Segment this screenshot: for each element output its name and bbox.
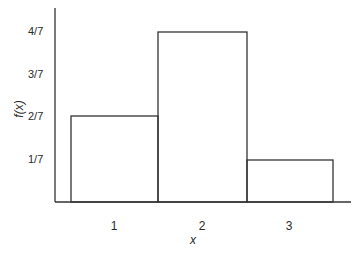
x-axis-label: x bbox=[190, 233, 196, 247]
y-axis-label: f(x) bbox=[12, 96, 26, 122]
bar-2 bbox=[158, 32, 247, 202]
bar-1 bbox=[71, 116, 158, 202]
x-tick-1: 1 bbox=[104, 219, 124, 233]
bar-3 bbox=[247, 160, 333, 202]
y-tick-3-7: 3/7 bbox=[28, 68, 50, 80]
x-tick-3: 3 bbox=[279, 219, 299, 233]
y-tick-2-7: 2/7 bbox=[28, 110, 50, 122]
y-tick-4-7: 4/7 bbox=[28, 25, 50, 37]
bar-chart bbox=[0, 0, 362, 255]
y-tick-1-7: 1/7 bbox=[28, 153, 50, 165]
x-tick-2: 2 bbox=[192, 219, 212, 233]
